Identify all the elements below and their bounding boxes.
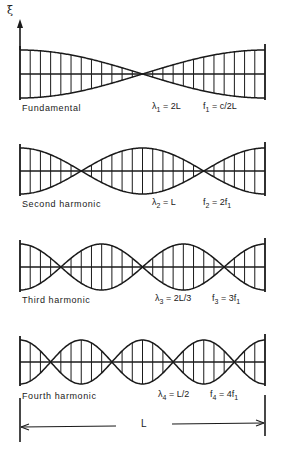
axis-arrow-icon xyxy=(17,19,23,28)
length-label: L xyxy=(141,418,147,429)
wavelength-eq-1: λ1 = 2L xyxy=(152,101,181,113)
wavelength-eq-4: λ4 = L/2 xyxy=(158,389,189,401)
standing-waves-diagram xyxy=(0,0,283,451)
frequency-eq-2: f2 = 2f1 xyxy=(203,197,231,209)
mode-label-fourth-harmonic: Fourth harmonic xyxy=(22,391,97,401)
mode-label-fundamental: Fundamental xyxy=(22,103,81,113)
dimension-line-left xyxy=(21,426,116,427)
frequency-eq-3: f3 = 3f1 xyxy=(212,293,240,305)
mode-label-third-harmonic: Third harmonic xyxy=(22,295,90,305)
frequency-eq-1: f1 = c/2L xyxy=(203,101,237,113)
wavelength-eq-3: λ3 = 2L/3 xyxy=(155,293,191,305)
dimension-line-right xyxy=(172,423,264,424)
displacement-axis-label: ξ xyxy=(7,4,13,17)
wavelength-eq-2: λ2 = L xyxy=(152,197,176,209)
mode-label-second-harmonic: Second harmonic xyxy=(22,199,101,209)
frequency-eq-4: f4 = 4f1 xyxy=(210,389,238,401)
